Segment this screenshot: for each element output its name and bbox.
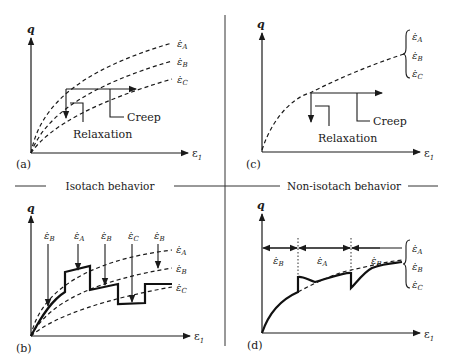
isotach-header: Isotach behavior bbox=[66, 180, 156, 192]
x-axis-label: ε1 bbox=[194, 330, 204, 345]
panel-b: q ε1 (b) ε̇A ε̇B ε̇C ε̇B ε̇A ε̇B ε̇C ε̇B bbox=[16, 202, 204, 355]
relaxation-label: Relaxation bbox=[318, 132, 377, 145]
relaxation-label: Relaxation bbox=[73, 128, 132, 141]
y-axis-label: q bbox=[257, 18, 265, 31]
panel-tag: (d) bbox=[247, 339, 263, 352]
brace-label-b: ε̇B bbox=[412, 261, 423, 274]
y-axis-label: q bbox=[27, 23, 35, 36]
curve-label-b: ε̇B bbox=[177, 56, 188, 69]
isotach-diagram: Isotach behavior Non-isotach behavior q … bbox=[0, 0, 451, 364]
creep-label: Creep bbox=[373, 115, 407, 128]
brace-label-c: ε̇C bbox=[412, 279, 423, 292]
y-axis-label: q bbox=[257, 199, 265, 212]
x-axis-label: ε1 bbox=[192, 147, 202, 162]
stepped-stress-path bbox=[31, 266, 172, 336]
curve-label-c: ε̇C bbox=[177, 74, 188, 87]
creep-label: Creep bbox=[127, 111, 161, 124]
creep-leader bbox=[110, 89, 124, 117]
stress-path bbox=[262, 262, 402, 333]
panel-a: q ε1 (a) ε̇A ε̇B ε̇C Creep Relaxation bbox=[16, 23, 202, 171]
panel-tag: (c) bbox=[246, 158, 261, 171]
curve-label-a: ε̇A bbox=[176, 244, 186, 257]
curve-label-a: ε̇A bbox=[177, 38, 187, 51]
curve-label-c: ε̇C bbox=[176, 282, 187, 295]
non-isotach-header: Non-isotach behavior bbox=[287, 180, 402, 192]
step-label-5: ε̇B bbox=[154, 230, 165, 243]
curve-label-b: ε̇B bbox=[176, 263, 187, 276]
panel-tag: (a) bbox=[16, 158, 31, 171]
interval-label-1: ε̇B bbox=[273, 255, 284, 268]
y-axis-label: q bbox=[27, 202, 35, 215]
panel-c: q ε1 (c) ε̇A ε̇B ε̇C Creep Relaxation bbox=[246, 18, 434, 171]
step-label-4: ε̇C bbox=[128, 230, 139, 243]
brace-label-b: ε̇B bbox=[412, 50, 423, 63]
brace-label-c: ε̇C bbox=[412, 68, 423, 81]
curve-rate-a bbox=[31, 250, 172, 336]
rate-brace bbox=[403, 240, 410, 288]
x-axis-label: ε1 bbox=[424, 328, 434, 343]
creep-leader bbox=[357, 93, 370, 121]
panel-tag: (b) bbox=[16, 342, 32, 355]
relaxation-leader bbox=[315, 106, 329, 126]
step-label-3: ε̇B bbox=[101, 230, 112, 243]
step-label-1: ε̇B bbox=[44, 230, 55, 243]
step-label-2: ε̇A bbox=[74, 230, 84, 243]
brace-label-a: ε̇A bbox=[412, 243, 422, 256]
rate-brace bbox=[403, 30, 410, 78]
x-axis-label: ε1 bbox=[424, 147, 434, 162]
curve-rate-c bbox=[31, 287, 172, 336]
panel-d: q ε1 (d) ε̇B ε̇A ε̇B ε̇A ε̇B ε̇C bbox=[247, 199, 434, 352]
relaxation-leader bbox=[70, 103, 83, 122]
brace-label-a: ε̇A bbox=[412, 31, 422, 44]
interval-label-2: ε̇A bbox=[317, 255, 327, 268]
